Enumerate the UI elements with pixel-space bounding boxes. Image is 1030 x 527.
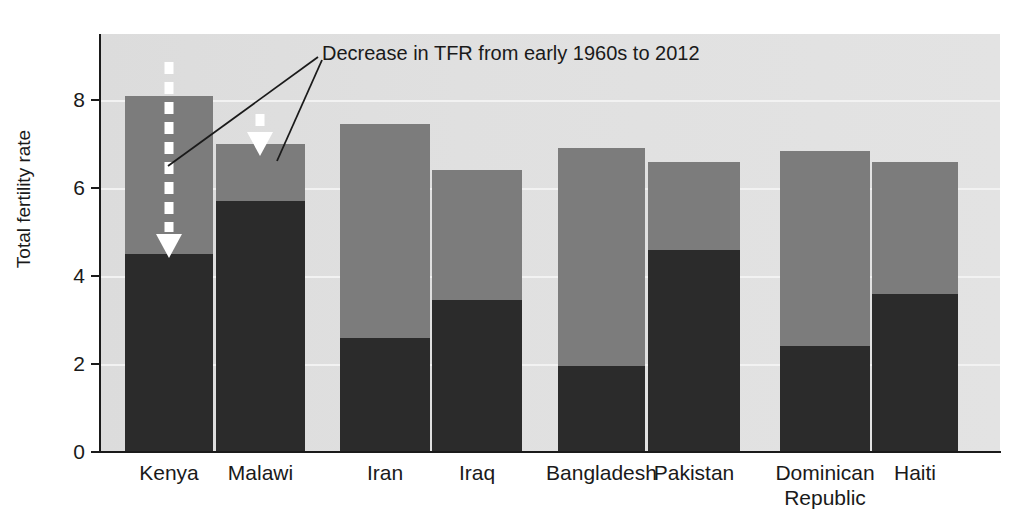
- decrease-arrow-kenya: [125, 62, 213, 260]
- bar-segment-current-2012: [216, 201, 305, 452]
- arrow-dash-segment: [165, 62, 174, 74]
- bar-segment-current-2012: [432, 300, 522, 452]
- bar-segment-current-2012: [125, 254, 213, 452]
- tick-mark-2: [91, 363, 100, 365]
- arrow-head: [156, 234, 182, 258]
- bar-iran[interactable]: [340, 124, 430, 452]
- x-axis-line: [99, 451, 1001, 453]
- bar-segment-current-2012: [340, 338, 430, 452]
- arrow-dash-segment: [165, 82, 174, 94]
- arrow-dash-segment: [165, 122, 174, 134]
- tick-label-4: 4: [45, 264, 85, 288]
- bar-bangladesh[interactable]: [558, 148, 645, 452]
- fertility-rate-chart: 8 6 4 2 0 Total fertility rate KenyaMala…: [0, 0, 1030, 527]
- bar-segment-current-2012: [558, 366, 645, 452]
- tick-mark-8: [91, 99, 100, 101]
- arrow-dash-segment: [165, 142, 174, 154]
- tick-label-0: 0: [45, 440, 85, 464]
- bar-segment-current-2012: [872, 294, 958, 452]
- bar-segment-current-2012: [648, 250, 740, 452]
- category-label-line: Republic: [745, 485, 905, 510]
- arrow-dash-segment: [256, 114, 265, 126]
- arrow-head: [247, 132, 273, 156]
- arrow-dash-segment: [165, 202, 174, 214]
- plot-area: [100, 34, 1000, 452]
- tick-mark-6: [91, 187, 100, 189]
- tick-label-6: 6: [45, 176, 85, 200]
- arrow-dash-segment: [165, 162, 174, 174]
- bar-pakistan[interactable]: [648, 162, 740, 452]
- gridline-8: [100, 100, 1000, 102]
- bar-haiti[interactable]: [872, 162, 958, 452]
- arrow-dash-segment: [165, 102, 174, 114]
- bar-segment-current-2012: [780, 346, 870, 452]
- bar-iraq[interactable]: [432, 170, 522, 452]
- annotation-label: Decrease in TFR from early 1960s to 2012: [322, 42, 700, 65]
- category-label-line: Haiti: [837, 460, 993, 485]
- category-label-haiti: Haiti: [837, 460, 993, 485]
- y-axis-line: [99, 34, 101, 453]
- tick-label-8: 8: [45, 88, 85, 112]
- bar-dominican-republic[interactable]: [780, 151, 870, 452]
- tick-label-2: 2: [45, 352, 85, 376]
- tick-mark-4: [91, 275, 100, 277]
- arrow-dash-segment: [165, 182, 174, 194]
- arrow-dash-segment: [165, 222, 174, 232]
- tick-mark-0: [91, 451, 100, 453]
- decrease-arrow-malawi: [216, 114, 304, 204]
- y-axis-label: Total fertility rate: [13, 89, 35, 309]
